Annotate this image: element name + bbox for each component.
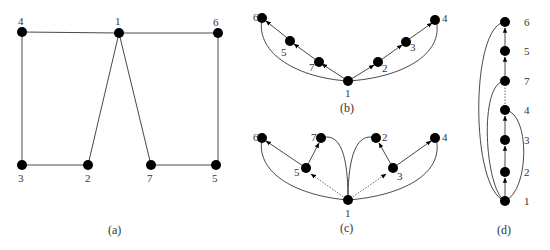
node-6	[500, 17, 510, 27]
label-2: 2	[382, 62, 388, 74]
label-6: 6	[253, 131, 259, 143]
panel-c: 1 5 3 6 7 2 4 (c)	[253, 131, 448, 235]
label-4: 4	[18, 15, 24, 27]
node-1	[500, 196, 510, 206]
label-5: 5	[281, 46, 287, 58]
label-1: 1	[345, 87, 351, 99]
node-3	[17, 160, 27, 170]
node-6	[213, 28, 223, 38]
label-7: 7	[147, 172, 153, 184]
node-4	[430, 15, 440, 25]
node-2	[83, 160, 93, 170]
label-7: 7	[309, 61, 315, 73]
label-6: 6	[524, 16, 530, 28]
node-7	[500, 76, 510, 86]
caption-d: (d)	[497, 223, 511, 237]
node-1	[343, 195, 353, 205]
caption-b: (b)	[340, 101, 354, 115]
label-4: 4	[442, 12, 448, 24]
caption-c: (c)	[340, 221, 353, 235]
node-7	[146, 160, 156, 170]
label-5: 5	[524, 45, 530, 57]
node-1	[114, 28, 124, 38]
label-4: 4	[442, 131, 448, 143]
label-3: 3	[524, 134, 530, 146]
node-5	[301, 163, 311, 173]
label-5: 5	[294, 166, 300, 178]
label-3: 3	[18, 172, 24, 184]
label-5: 5	[212, 172, 218, 184]
node-4	[17, 27, 27, 37]
figure: 4 1 6 3 2 7 5 (a) 1 7 5 6 2 3 4 (b)	[0, 0, 550, 250]
caption-a: (a)	[108, 223, 121, 237]
panel-a: 4 1 6 3 2 7 5 (a)	[17, 15, 223, 237]
node-6	[257, 133, 267, 143]
node-7	[316, 133, 326, 143]
node-5	[500, 46, 510, 56]
panel-d: 6 5 7 4 3 2 1 (d)	[479, 16, 530, 237]
label-1: 1	[524, 195, 530, 207]
node-1	[343, 76, 353, 86]
label-3: 3	[410, 41, 416, 53]
panel-b: 1 7 5 6 2 3 4 (b)	[253, 11, 448, 115]
label-2: 2	[524, 166, 530, 178]
node-4	[500, 105, 510, 115]
node-7	[314, 57, 324, 67]
label-4: 4	[524, 104, 530, 116]
node-6	[257, 13, 267, 23]
label-2: 2	[382, 131, 388, 143]
label-3: 3	[397, 170, 403, 182]
node-4	[430, 133, 440, 143]
label-1: 1	[115, 15, 121, 27]
label-7: 7	[311, 131, 317, 143]
node-5	[285, 36, 295, 46]
label-6: 6	[253, 11, 259, 23]
node-5	[211, 160, 221, 170]
label-7: 7	[524, 75, 530, 87]
label-6: 6	[213, 16, 219, 28]
node-2	[371, 133, 381, 143]
label-1: 1	[345, 207, 351, 219]
label-2: 2	[85, 172, 91, 184]
node-2	[500, 167, 510, 177]
node-3	[500, 135, 510, 145]
